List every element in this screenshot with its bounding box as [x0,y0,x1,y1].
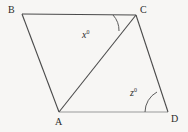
vertex-label-b: B [8,5,15,15]
degree-symbol-x: 0 [86,29,89,35]
vertex-label-a: A [55,117,62,127]
angle-arc-x [113,15,119,31]
geometry-figure: B C A D x0 z0 [0,0,188,132]
vertex-label-d: D [171,114,178,124]
geometry-canvas [0,0,188,132]
segment-bc [22,14,136,15]
degree-symbol-z: 0 [134,87,137,93]
angle-label-x: x0 [82,29,89,40]
vertex-label-c: C [140,5,147,15]
angle-arc-z [145,92,157,112]
segment-cd [136,15,168,112]
angle-label-z: z0 [130,87,137,98]
segment-ba [22,14,59,112]
segment-ac-diagonal [59,15,136,112]
